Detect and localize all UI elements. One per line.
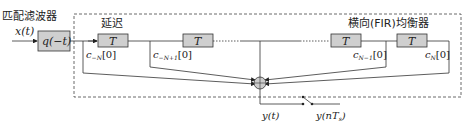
tap-label-2: c−N+1[0] bbox=[153, 49, 192, 61]
sampled-output-label: y(nTs) bbox=[315, 110, 346, 122]
tap-label-4: cN[0] bbox=[425, 49, 450, 61]
equalizer-label: 横向(FIR)均衡器 bbox=[348, 16, 429, 30]
fir-equalizer-diagram: 匹配滤波器 延迟 横向(FIR)均衡器 x(t) q(−t) T T T T c… bbox=[0, 0, 467, 123]
matched-filter-label: 匹配滤波器 bbox=[2, 10, 57, 23]
tap-label-1: c−N[0] bbox=[86, 49, 116, 61]
tap-label-3: cN−1[0] bbox=[353, 49, 387, 61]
svg-text:q(−t): q(−t) bbox=[42, 35, 71, 48]
sampling-switch bbox=[303, 97, 312, 104]
output-label: y(t) bbox=[261, 110, 280, 121]
input-label: x(t) bbox=[15, 25, 34, 38]
delay-label: 延迟 bbox=[101, 17, 123, 30]
